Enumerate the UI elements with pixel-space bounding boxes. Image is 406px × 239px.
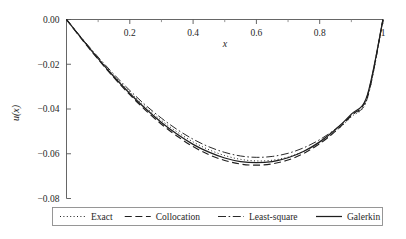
- y-axis-tick-labels: 0.00−0.02−0.04−0.06−0.08: [38, 15, 60, 204]
- x-tick-label: 0.4: [187, 28, 199, 38]
- legend-label-collocation: Collocation: [156, 212, 201, 222]
- x-tick-label: 0.6: [250, 28, 262, 38]
- figure-canvas: 0.20.40.60.81 0.00−0.02−0.04−0.06−0.08 x…: [0, 0, 406, 239]
- x-axis-ticks: [130, 20, 383, 25]
- x-axis-title: x: [222, 38, 228, 49]
- y-tick-label: 0.00: [43, 15, 60, 25]
- y-tick-label: −0.08: [38, 194, 60, 204]
- x-axis-tick-labels: 0.20.40.60.81: [124, 28, 386, 38]
- y-tick-label: −0.04: [38, 104, 60, 114]
- legend-label-least-square: Least-square: [249, 212, 298, 222]
- legend: ExactCollocationLeast-squareGalerkin: [53, 208, 383, 226]
- y-tick-label: −0.06: [38, 149, 60, 159]
- legend-label-galerkin: Galerkin: [347, 212, 380, 222]
- x-tick-label: 0.8: [314, 28, 326, 38]
- chart-plot: 0.20.40.60.81 0.00−0.02−0.04−0.06−0.08 x…: [0, 0, 406, 239]
- y-tick-label: −0.02: [38, 60, 60, 70]
- legend-items: ExactCollocationLeast-squareGalerkin: [60, 212, 380, 222]
- y-axis-title: u(x): [10, 104, 22, 121]
- y-axis-ticks: [67, 20, 72, 199]
- legend-label-exact: Exact: [91, 212, 113, 222]
- x-tick-label: 0.2: [124, 28, 136, 38]
